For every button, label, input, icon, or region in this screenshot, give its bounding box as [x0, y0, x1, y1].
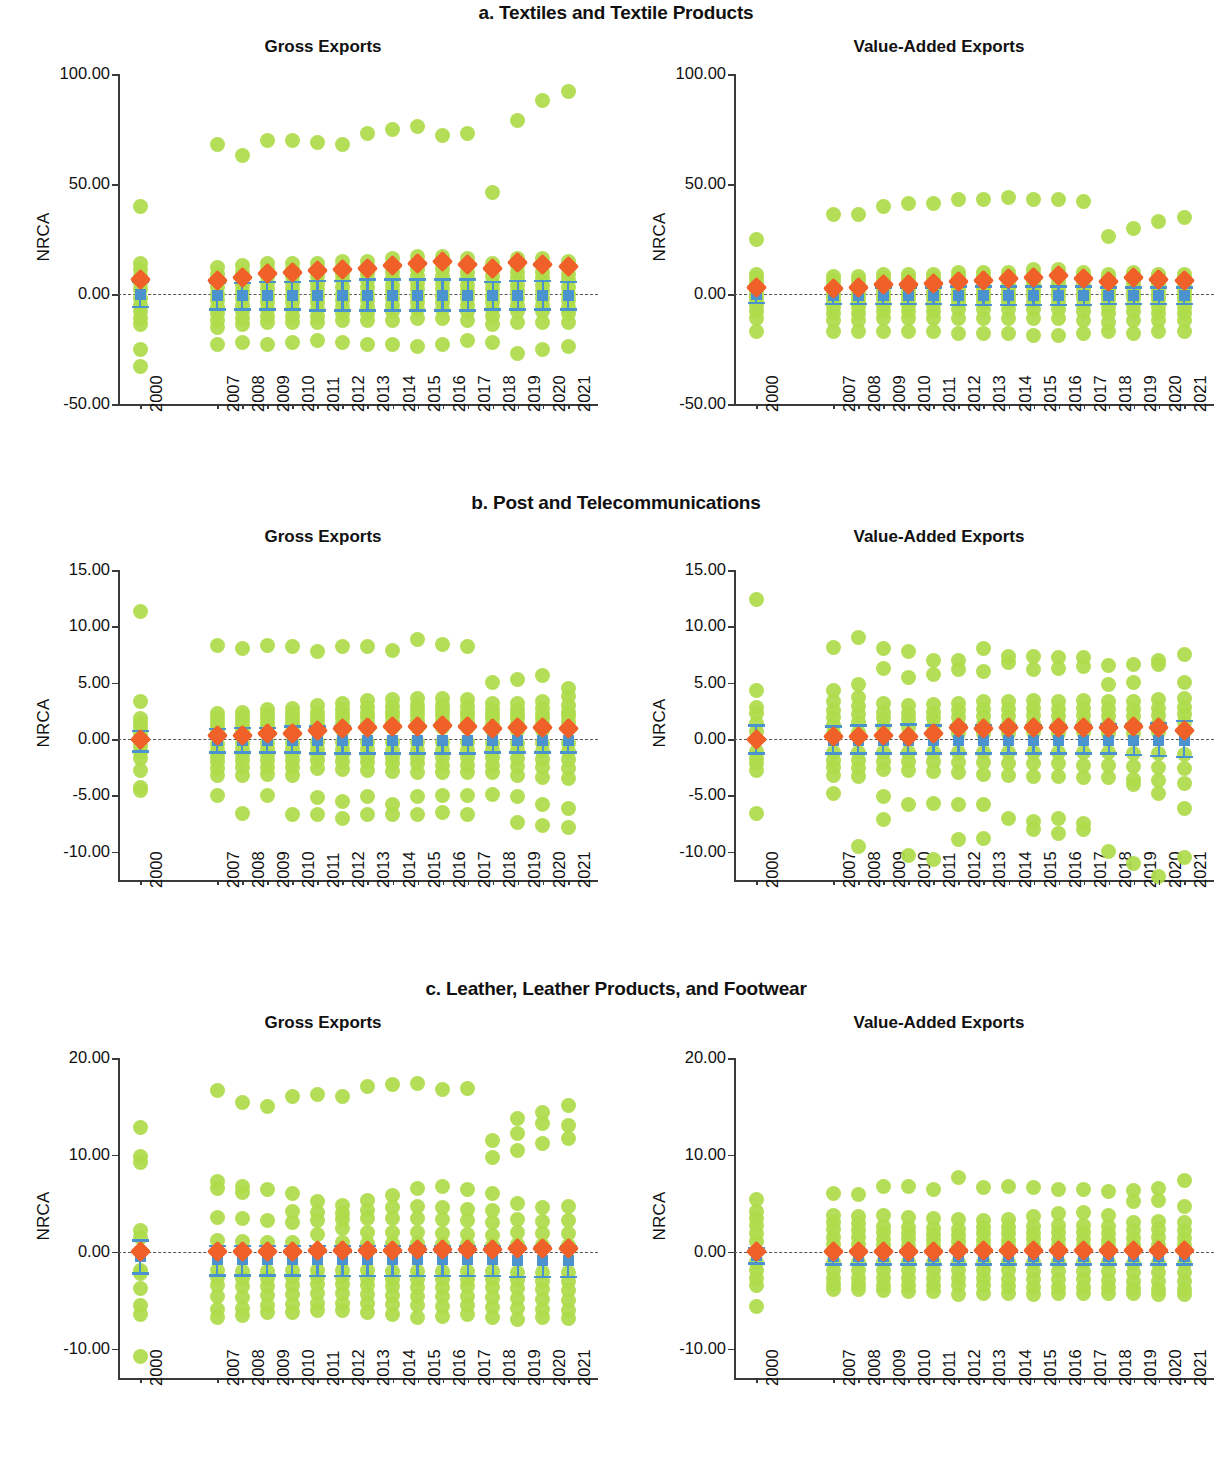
x-tickmark	[1009, 880, 1011, 885]
median-marker	[1153, 290, 1164, 301]
x-tick-label: 2007	[841, 1349, 858, 1386]
x-tickmark	[493, 404, 495, 409]
scatter-point	[410, 1310, 425, 1325]
scatter-point	[1101, 770, 1116, 785]
scatter-point	[510, 1196, 525, 1211]
scatter-point	[460, 333, 475, 348]
scatter-point	[435, 805, 450, 820]
median-marker	[978, 290, 989, 301]
median-marker	[462, 290, 473, 301]
scatter-point	[210, 1181, 225, 1196]
error-bar-cap-lower	[1075, 304, 1092, 307]
error-bar-cap-lower	[132, 1272, 149, 1275]
x-tickmark	[443, 880, 445, 885]
x-tick-label: 2021	[576, 1349, 593, 1386]
x-tick-label: 2018	[1117, 375, 1134, 412]
scatter-point	[901, 670, 916, 685]
x-tickmark	[756, 404, 758, 409]
scatter-point	[1001, 190, 1016, 205]
median-marker	[1003, 290, 1014, 301]
scatter-point	[851, 769, 866, 784]
x-tick-label: 2008	[250, 1349, 267, 1386]
x-tickmark	[367, 404, 369, 409]
error-bar-cap-upper	[384, 278, 401, 281]
x-tick-label: 2007	[225, 851, 242, 888]
error-bar-cap-lower	[825, 752, 842, 755]
scatter-point	[1076, 326, 1091, 341]
scatter-point	[485, 765, 500, 780]
scatter-point	[876, 641, 891, 656]
x-tick-label: 2000	[764, 375, 781, 412]
x-tick-label: 2019	[1142, 375, 1159, 412]
scatter-point	[510, 815, 525, 830]
scatter-point	[876, 762, 891, 777]
scatter-point	[561, 1098, 576, 1113]
median-marker	[387, 290, 398, 301]
x-tick-label: 2008	[250, 851, 267, 888]
error-bar-cap-upper	[484, 281, 501, 284]
median-marker	[437, 290, 448, 301]
scatter-point	[310, 315, 325, 330]
scatter-point	[1051, 811, 1066, 826]
scatter-point	[976, 311, 991, 326]
scatter-point	[460, 639, 475, 654]
x-tick-label: 2014	[401, 851, 418, 888]
scatter-point	[1177, 801, 1192, 816]
x-tick-label: 2018	[501, 851, 518, 888]
scatter-point	[901, 1179, 916, 1194]
x-tickmark	[933, 880, 935, 885]
scatter-point	[749, 1278, 764, 1293]
mean-marker	[557, 1237, 578, 1258]
scatter-point	[876, 661, 891, 676]
x-tick-label: 2011	[941, 853, 958, 888]
scatter-point	[335, 639, 350, 654]
x-tickmark	[958, 880, 960, 885]
scatter-point	[1126, 675, 1141, 690]
scatter-point	[510, 346, 525, 361]
scatter-point	[360, 789, 375, 804]
scatter-point	[210, 768, 225, 783]
x-tickmark	[1134, 880, 1136, 885]
scatter-point	[851, 324, 866, 339]
error-bar-cap-lower	[925, 752, 942, 755]
error-bar-cap-lower	[484, 308, 501, 311]
x-tick-label: 2020	[1167, 1349, 1184, 1386]
y-tick-label: -50.00	[656, 395, 726, 412]
median-marker	[437, 735, 448, 746]
scatter-point	[1026, 192, 1041, 207]
scatter-point	[460, 126, 475, 141]
scatter-point	[385, 807, 400, 822]
scatter-point	[1151, 1193, 1166, 1208]
error-bar-cap-upper	[359, 278, 376, 281]
scatter-point	[926, 796, 941, 811]
scatter-point	[335, 335, 350, 350]
scatter-point	[1051, 192, 1066, 207]
scatter-point	[360, 763, 375, 778]
y-axis-line	[734, 74, 736, 404]
error-bar-cap-lower	[384, 752, 401, 755]
error-bar-cap-lower	[209, 308, 226, 311]
x-tickmark	[367, 880, 369, 885]
error-bar-cap-lower	[434, 752, 451, 755]
error-bar-cap-lower	[1150, 755, 1167, 758]
scatter-point	[133, 763, 148, 778]
x-tick-label: 2014	[401, 1349, 418, 1386]
scatter-point	[235, 1211, 250, 1226]
scatter-point	[826, 1282, 841, 1297]
subplot-title-c-gross: Gross Exports	[0, 1008, 616, 1038]
scatter-point	[435, 1179, 450, 1194]
scatter-point	[1076, 770, 1091, 785]
x-tickmark	[1059, 1378, 1061, 1383]
scatter-point	[410, 807, 425, 822]
scatter-point	[460, 788, 475, 803]
x-tickmark	[393, 880, 395, 885]
x-tick-label: 2017	[476, 851, 493, 888]
x-tickmark	[908, 880, 910, 885]
scatter-point	[926, 852, 941, 867]
median-marker	[487, 290, 498, 301]
median-marker	[1078, 290, 1089, 301]
x-tick-label: 2007	[225, 375, 242, 412]
scatter-point	[901, 196, 916, 211]
x-tick-label: 2010	[916, 1349, 933, 1386]
error-bar-cap-lower	[1100, 752, 1117, 755]
